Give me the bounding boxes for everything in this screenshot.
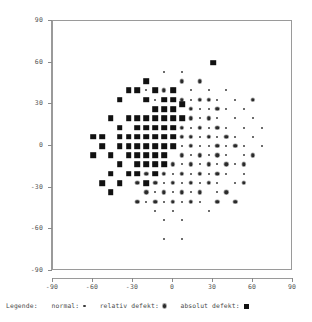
data-point-absolut: [161, 134, 167, 140]
data-point-relativ: [216, 172, 219, 175]
data-point-normal: [199, 182, 201, 184]
data-point-relativ: [162, 89, 165, 92]
data-point-relativ: [171, 181, 174, 184]
data-point-normal: [199, 163, 201, 165]
data-point-normal: [190, 99, 192, 101]
absolut-defekt-marker-icon: [244, 304, 249, 309]
data-point-normal: [216, 136, 218, 138]
data-point-normal: [199, 145, 201, 147]
x-tick: [292, 278, 293, 282]
legend-label-normal: normal:: [52, 302, 80, 310]
data-point-normal: [234, 136, 236, 138]
legend-item-relativ-defekt: relativ defekt:: [100, 302, 167, 310]
data-point-normal: [199, 201, 201, 203]
x-tick-label: -90: [46, 284, 58, 291]
data-point-normal: [181, 219, 183, 221]
x-tick-label: 0: [170, 284, 174, 291]
data-point-absolut: [144, 134, 150, 140]
x-tick: [212, 278, 213, 282]
data-point-absolut: [170, 125, 176, 131]
data-point-absolut: [161, 97, 167, 103]
legend-label-relativ-defekt: relativ defekt:: [100, 302, 159, 310]
data-point-normal: [163, 182, 165, 184]
data-point-absolut: [144, 153, 150, 159]
data-point-absolut: [99, 180, 105, 186]
data-point-relativ: [242, 163, 245, 166]
data-point-normal: [199, 108, 201, 110]
data-point-normal: [154, 191, 156, 193]
data-point-relativ: [225, 163, 228, 166]
data-point-absolut: [135, 143, 141, 149]
data-point-normal: [216, 99, 218, 101]
data-point-normal: [234, 182, 236, 184]
data-point-normal: [261, 127, 263, 129]
y-tick-label: 0: [39, 142, 43, 149]
data-point-normal: [208, 210, 210, 212]
data-point-absolut: [135, 115, 141, 121]
data-point-normal: [225, 89, 227, 91]
data-point-absolut: [90, 153, 96, 159]
data-point-normal: [234, 117, 236, 119]
data-point-normal: [216, 191, 218, 193]
data-point-normal: [243, 173, 245, 175]
data-point-relativ: [171, 163, 174, 166]
data-point-normal: [181, 71, 183, 73]
data-point-normal: [225, 154, 227, 156]
data-point-absolut: [144, 115, 150, 121]
x-tick: [132, 278, 133, 282]
data-point-normal: [154, 210, 156, 212]
x-tick: [172, 278, 173, 282]
data-point-normal: [163, 201, 165, 203]
data-point-relativ: [225, 135, 228, 138]
data-point-absolut: [117, 143, 123, 149]
y-tick-label: 60: [35, 58, 43, 65]
data-point-absolut: [126, 88, 132, 94]
data-point-relativ: [180, 135, 183, 138]
data-point-normal: [225, 108, 227, 110]
data-point-normal: [163, 71, 165, 73]
y-tick: [48, 270, 52, 271]
legend: Legende: normal: relativ defekt: absolut…: [6, 299, 306, 313]
data-point-normal: [190, 173, 192, 175]
data-point-normal: [208, 89, 210, 91]
data-point-absolut: [117, 97, 123, 103]
data-point-normal: [181, 238, 183, 240]
legend-item-normal: normal:: [52, 302, 86, 310]
data-point-normal: [172, 191, 174, 193]
data-point-absolut: [108, 115, 114, 121]
data-point-normal: [172, 210, 174, 212]
legend-item-absolut-defekt: absolut defekt:: [180, 302, 248, 310]
data-point-absolut: [135, 134, 141, 140]
data-point-absolut: [179, 102, 185, 108]
data-point-relativ: [216, 144, 219, 147]
data-point-absolut: [108, 171, 114, 177]
data-point-relativ: [180, 172, 183, 175]
data-point-absolut: [135, 153, 141, 159]
data-point-normal: [199, 117, 201, 119]
x-tick-label: -60: [86, 284, 98, 291]
data-point-normal: [208, 154, 210, 156]
data-point-relativ: [207, 135, 210, 138]
data-point-absolut: [152, 88, 158, 94]
data-point-absolut: [152, 134, 158, 140]
x-tick-label: 60: [248, 284, 256, 291]
data-point-relativ: [171, 200, 174, 203]
data-point-relativ: [225, 191, 228, 194]
data-point-relativ: [216, 126, 219, 129]
data-point-absolut: [170, 97, 176, 103]
data-point-normal: [225, 145, 227, 147]
data-point-absolut: [144, 78, 150, 84]
data-point-relativ: [154, 181, 157, 184]
data-point-absolut: [161, 143, 167, 149]
data-point-absolut: [135, 162, 141, 168]
data-point-absolut: [126, 143, 132, 149]
data-point-normal: [252, 136, 254, 138]
data-point-relativ: [189, 181, 192, 184]
data-point-absolut: [152, 115, 158, 121]
data-point-absolut: [144, 143, 150, 149]
data-point-normal: [190, 154, 192, 156]
data-point-relativ: [207, 181, 210, 184]
y-tick-label: -90: [31, 267, 43, 274]
data-point-normal: [216, 117, 218, 119]
data-point-relativ: [162, 172, 165, 175]
